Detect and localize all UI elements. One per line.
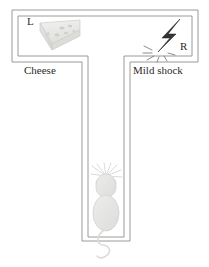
maze-drawing: [0, 0, 209, 267]
mouse-icon: [91, 163, 122, 258]
mild-shock-label: Mild shock: [133, 65, 183, 76]
right-arm-marker: R: [180, 41, 187, 52]
t-maze-figure: L R Cheese Mild shock: [0, 0, 209, 267]
cheese-wedge-icon: [40, 20, 80, 50]
cheese-label: Cheese: [24, 65, 56, 76]
left-arm-marker: L: [27, 16, 34, 27]
